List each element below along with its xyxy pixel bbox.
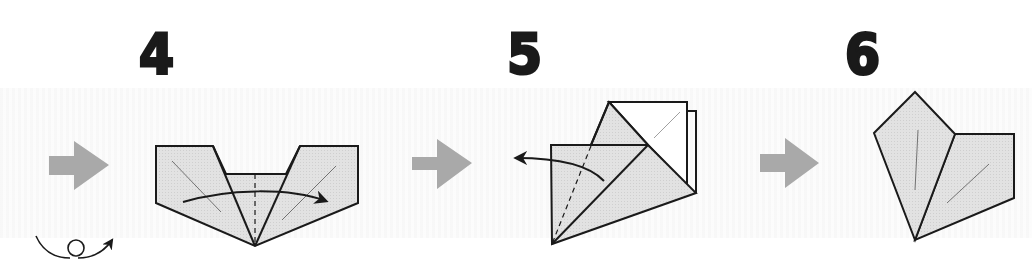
step-5-figure xyxy=(516,102,696,244)
step-4-figure xyxy=(156,146,358,246)
step-6-figure xyxy=(874,92,1014,240)
step-arrow-icon-4 xyxy=(49,141,109,190)
origami-diagram-canvas xyxy=(0,0,1032,273)
step-arrow-icon-6 xyxy=(760,138,819,188)
turn-over-icon xyxy=(36,236,112,258)
step-arrow-icon-5 xyxy=(412,139,472,189)
